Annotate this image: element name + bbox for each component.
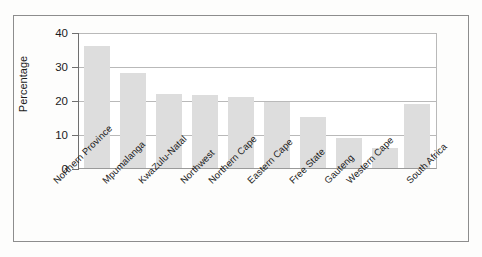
y-axis-tick-labels: 40 30 20 10 0 <box>0 0 482 257</box>
y-tick-label-30: 30 <box>28 61 68 73</box>
y-axis-title: Percentage <box>17 39 29 129</box>
y-tick-label-10: 10 <box>28 129 68 141</box>
chart-figure: 40 30 20 10 0 Percentage Northern Provin… <box>0 0 482 257</box>
y-tick-label-20: 20 <box>28 95 68 107</box>
y-tick-label-0: 0 <box>28 163 68 175</box>
y-tick-label-40: 40 <box>28 27 68 39</box>
